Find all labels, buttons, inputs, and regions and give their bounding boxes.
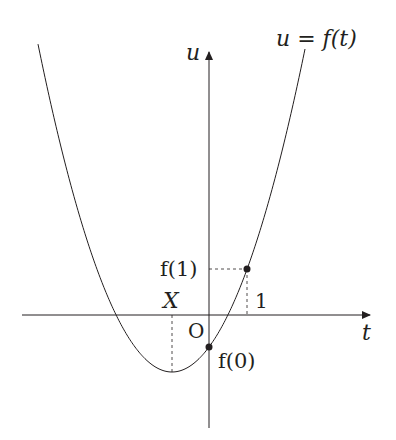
u-axis-label: u xyxy=(186,40,200,65)
parabola-curve xyxy=(38,44,305,372)
function-graph: u = f(t) u t O X 1 f(1) f(0) xyxy=(0,0,396,440)
point-f1 xyxy=(244,266,251,273)
point-f0 xyxy=(206,344,213,351)
vertex-t-label: X xyxy=(161,288,180,313)
f0-label: f(0) xyxy=(218,349,256,373)
f1-label: f(1) xyxy=(160,257,198,281)
origin-label: O xyxy=(188,319,204,343)
t-axis-label: t xyxy=(362,320,371,345)
curve-label: u = f(t) xyxy=(276,26,357,51)
t-one-label: 1 xyxy=(255,289,268,313)
